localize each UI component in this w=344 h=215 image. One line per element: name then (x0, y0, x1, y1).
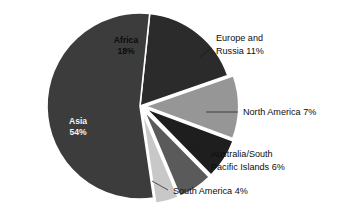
callout-europe-russia-line2: Russia 11% (216, 46, 264, 56)
callout-north-america-line1: North America 7% (243, 107, 316, 117)
pie-slices (47, 13, 239, 203)
slice-label-asia-name: Asia (69, 116, 87, 126)
slice-label-africa-name: Africa (114, 35, 139, 45)
callout-south-america-line1: South America 4% (173, 186, 248, 196)
pie-chart-figure: Africa 18% Asia 54% Europe and Russia 11… (0, 0, 344, 215)
slice-label-asia-value: 54% (69, 127, 87, 137)
slice-label-africa-value: 18% (117, 46, 135, 56)
callout-australia-pacific-line1: Australia/South (211, 149, 273, 159)
callout-europe-russia-line1: Europe and (216, 33, 263, 43)
pie-chart-canvas: Africa 18% Asia 54% Europe and Russia 11… (0, 0, 344, 215)
callout-australia-pacific-line2: Pacific Islands 6% (211, 162, 285, 172)
